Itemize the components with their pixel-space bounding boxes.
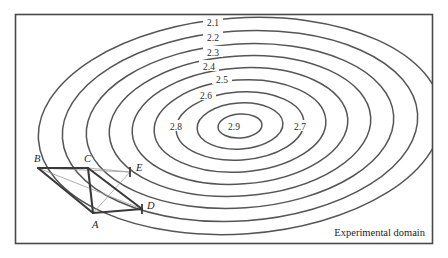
contour-label-2.2: 2.2	[207, 33, 219, 43]
contour-label-2.6: 2.6	[200, 91, 212, 101]
contour-label-2.8: 2.8	[170, 122, 182, 132]
vertex-label-D: D	[146, 200, 155, 211]
experimental-domain-label: Experimental domain	[334, 227, 425, 238]
contour-label-2.4: 2.4	[203, 62, 215, 72]
contour-label-2.9: 2.9	[228, 122, 240, 132]
contour-label-2.1: 2.1	[207, 18, 219, 28]
vertex-label-A: A	[91, 219, 99, 230]
vertex-label-C: C	[84, 153, 92, 164]
contour-plot-figure: 2.12.22.32.42.52.62.72.82.9ABCDEExperime…	[0, 0, 448, 258]
vertex-label-E: E	[135, 162, 143, 173]
contour-label-2.5: 2.5	[216, 75, 228, 85]
contour-label-2.7: 2.7	[294, 122, 306, 132]
vertex-label-B: B	[34, 153, 41, 164]
response-surface-svg: 2.12.22.32.42.52.62.72.82.9ABCDEExperime…	[0, 0, 448, 258]
contour-label-2.3: 2.3	[207, 48, 219, 58]
